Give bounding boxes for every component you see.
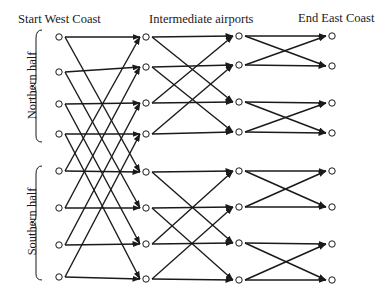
route-arrow <box>65 244 140 245</box>
airport-node <box>236 277 242 283</box>
airport-node <box>236 62 242 68</box>
route-arrow <box>152 171 233 172</box>
airport-node <box>143 205 149 211</box>
airport-node <box>329 100 335 106</box>
airport-node <box>329 241 335 247</box>
airport-node <box>329 204 335 210</box>
route-arrow <box>152 279 233 280</box>
airport-node <box>56 274 62 280</box>
route-arrow <box>65 171 140 172</box>
butterfly-network-diagram <box>0 0 378 299</box>
brace-southern <box>31 166 42 280</box>
airport-node <box>329 63 335 69</box>
airport-node <box>329 130 335 136</box>
route-arrow <box>65 277 140 279</box>
airport-node <box>143 100 149 106</box>
airport-node <box>329 277 335 283</box>
airport-node <box>56 101 62 107</box>
airport-node <box>143 34 149 40</box>
route-arrow <box>245 132 326 133</box>
airport-node <box>56 69 62 75</box>
route-arrow <box>245 65 326 66</box>
route-arrow <box>245 243 326 244</box>
airport-node <box>236 168 242 174</box>
route-arrow <box>245 102 326 103</box>
route-arrow <box>152 132 233 134</box>
airport-node <box>56 131 62 137</box>
route-arrow <box>152 102 233 103</box>
airport-node <box>236 129 242 135</box>
airport-node <box>236 240 242 246</box>
airport-node <box>143 169 149 175</box>
airport-node <box>143 276 149 282</box>
airport-node <box>56 242 62 248</box>
edges <box>65 36 326 280</box>
airport-node <box>143 131 149 137</box>
airport-node <box>329 33 335 39</box>
airport-node <box>56 168 62 174</box>
airport-node <box>143 64 149 70</box>
route-arrow <box>65 67 140 72</box>
airport-node <box>56 34 62 40</box>
airport-node <box>236 204 242 210</box>
airport-node <box>329 168 335 174</box>
brace-northern <box>31 30 42 142</box>
airport-node <box>56 205 62 211</box>
route-arrow <box>152 36 233 37</box>
airport-node <box>236 99 242 105</box>
route-arrow <box>152 65 233 134</box>
braces <box>31 30 42 280</box>
airport-node <box>143 241 149 247</box>
route-arrow <box>152 65 233 67</box>
airport-node <box>236 33 242 39</box>
